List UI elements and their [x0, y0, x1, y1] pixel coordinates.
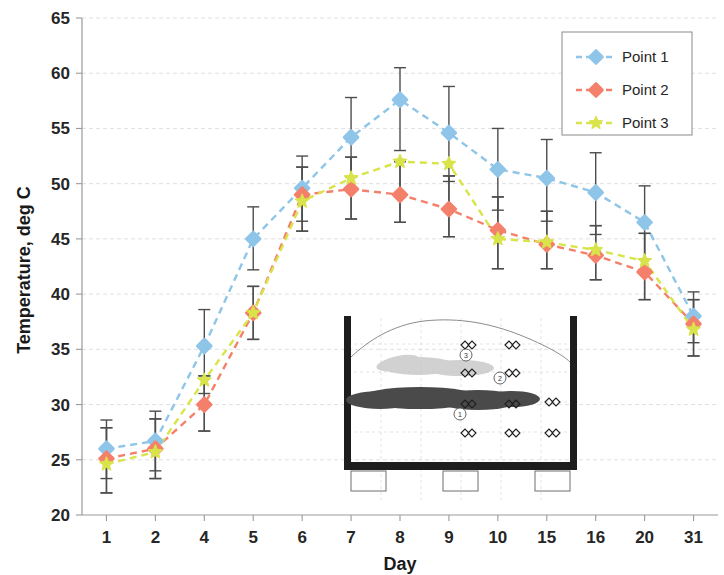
y-axis-tick-label: 55 [51, 119, 70, 138]
inset-floor [344, 462, 577, 470]
y-axis-tick-label: 35 [51, 340, 70, 359]
x-axis-tick-label: 8 [395, 528, 404, 547]
x-axis-title: Day [383, 554, 416, 574]
x-axis-tick-label: 10 [488, 528, 507, 547]
x-axis-tick-label: 5 [248, 528, 257, 547]
inset-point-label-2: 2 [498, 375, 502, 382]
y-axis-tick-label: 60 [51, 64, 70, 83]
y-axis-tick-label: 30 [51, 396, 70, 415]
y-axis-tick-label: 40 [51, 285, 70, 304]
inset-point-label-3: 3 [464, 352, 468, 359]
inset-right-wall [570, 316, 577, 470]
x-axis-tick-label: 31 [684, 528, 703, 547]
inset-point-label-1: 1 [458, 411, 462, 418]
x-axis-tick-label: 1 [102, 528, 111, 547]
legend: Point 1Point 2Point 3 [562, 32, 692, 135]
temperature-line-chart: 20253035404550556065 124567891015162031 … [0, 0, 724, 575]
x-axis-tick-label: 6 [297, 528, 306, 547]
y-axis-title: Temperature, deg C [14, 186, 34, 354]
x-axis-tick-label: 20 [635, 528, 654, 547]
y-axis-tick-label: 50 [51, 175, 70, 194]
legend-label: Point 3 [622, 114, 669, 131]
x-axis-tick-label: 9 [444, 528, 453, 547]
x-axis-tick-label: 16 [586, 528, 605, 547]
chart-canvas: 20253035404550556065 124567891015162031 … [0, 0, 724, 575]
y-axis-tick-label: 45 [51, 230, 70, 249]
y-axis-tick-label: 20 [51, 506, 70, 525]
inset-left-wall [344, 316, 351, 470]
x-axis-tick-label: 2 [151, 528, 160, 547]
x-axis-tick-label: 15 [537, 528, 556, 547]
y-axis-tick-label: 25 [51, 451, 70, 470]
x-axis-tick-label: 4 [200, 528, 210, 547]
x-axis-tick-labels: 124567891015162031 [102, 528, 703, 547]
legend-label: Point 1 [622, 48, 669, 65]
x-axis-tick-label: 7 [346, 528, 355, 547]
y-axis-tick-labels: 20253035404550556065 [51, 9, 70, 525]
y-axis-tick-label: 65 [51, 9, 70, 28]
x-axis-ticks [106, 515, 693, 521]
legend-label: Point 2 [622, 81, 669, 98]
